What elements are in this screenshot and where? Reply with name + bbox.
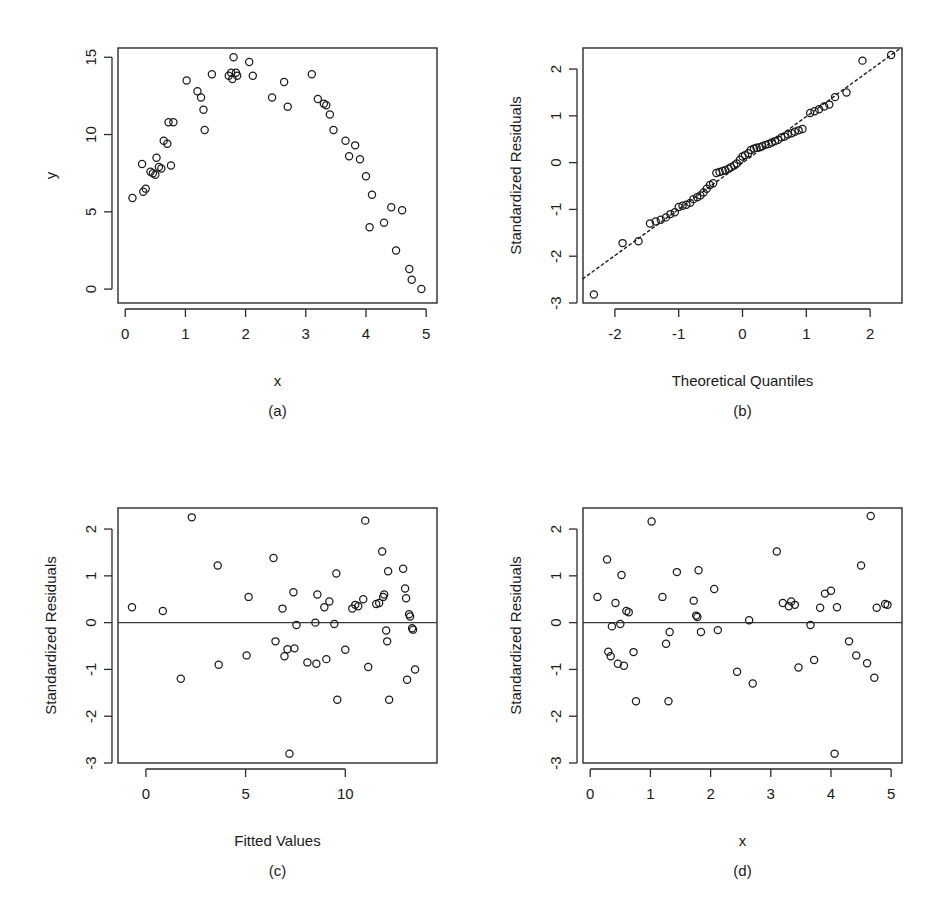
y-tick-label: -1 [547,203,564,216]
x-tick-label: 5 [422,325,430,342]
data-point [697,628,704,635]
data-point [334,696,341,703]
data-point [625,609,632,616]
data-point [279,605,286,612]
plot-frame [118,508,437,763]
data-point [326,111,333,118]
data-point [183,77,190,84]
y-tick-label: -3 [82,756,99,769]
data-point [388,204,395,211]
data-point [827,587,834,594]
data-point [811,656,818,663]
y-tick-label: 0 [82,618,99,626]
y-tick-label: 1 [547,572,564,580]
data-point [690,597,697,604]
data-point [386,696,393,703]
data-point [323,102,330,109]
data-point [603,556,610,563]
y-tick-label: -3 [547,756,564,769]
y-tick-label: 2 [547,525,564,533]
y-tick-label: 1 [82,572,99,580]
data-point [304,659,311,666]
x-tick-label: 0 [586,785,594,802]
data-point [188,514,195,521]
data-point [323,656,330,663]
data-point [594,593,601,600]
y-axis-title: Standardized Residuals [507,96,524,254]
y-axis-title: y [42,171,59,179]
data-point [403,595,410,602]
data-point [330,126,337,133]
x-tick-label: 2 [241,325,249,342]
data-point [418,285,425,292]
data-point [379,548,386,555]
y-tick-label: -1 [547,663,564,676]
data-point [400,565,407,572]
data-point [270,554,277,561]
y-tick-label: 0 [547,158,564,166]
data-point [659,593,666,600]
data-point [200,106,207,113]
data-point [608,623,615,630]
data-points [128,514,418,757]
data-point [859,57,866,64]
panel-d-plot-area: 012345-3-2-1012xStandardized Residuals(d… [507,508,902,879]
data-point [158,165,165,172]
x-tick-label: 3 [302,325,310,342]
data-point [383,627,390,634]
plot-frame [583,508,902,763]
x-axis-title: Fitted Values [234,832,320,849]
data-point [406,265,413,272]
data-point [630,649,637,656]
x-tick-label: 1 [181,325,189,342]
data-points [129,54,425,293]
data-point [281,78,288,85]
y-tick-label: -3 [547,296,564,309]
data-point [381,591,388,598]
data-point [245,593,252,600]
data-point [291,645,298,652]
data-points [594,512,891,757]
data-point [695,567,702,574]
data-point [612,599,619,606]
data-point [333,570,340,577]
x-tick-label: 0 [738,325,746,342]
data-point [215,661,222,668]
x-tick-label: 1 [646,785,654,802]
data-point [362,517,369,524]
data-point [711,585,718,592]
data-point [197,94,204,101]
x-tick-label: -2 [608,325,621,342]
y-axis-title: Standardized Residuals [507,556,524,714]
panel-c-svg: 0510-3-2-1012Fitted ValuesStandardized R… [0,460,465,920]
data-point [153,154,160,161]
data-point [619,240,626,247]
data-point [853,652,860,659]
data-point [360,596,367,603]
data-point [362,173,369,180]
data-point [284,103,291,110]
data-point [384,638,391,645]
x-tick-label: 10 [337,785,354,802]
data-point [749,680,756,687]
data-point [170,119,177,126]
data-point [177,675,184,682]
x-tick-label: -1 [672,325,685,342]
data-point [313,660,320,667]
data-point [845,638,852,645]
data-point [817,604,824,611]
y-tick-label: 10 [82,126,99,143]
panel-a-svg: 012345051015xy(a) [0,0,465,460]
data-point [243,652,250,659]
y-tick-label: 2 [82,525,99,533]
panel-caption: (b) [733,402,751,419]
data-point [331,620,338,627]
data-point [326,598,333,605]
data-point [590,291,597,298]
x-axis-title: x [274,372,282,389]
data-point [833,604,840,611]
plot-frame [583,48,902,303]
data-point [398,207,405,214]
data-point [159,607,166,614]
panel-a-plot-area: 012345051015xy(a) [42,48,437,419]
